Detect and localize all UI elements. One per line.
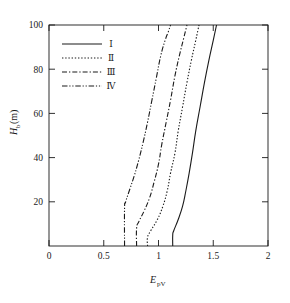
- y-tick-label: 80: [34, 65, 44, 75]
- x-axis-label-base: E: [149, 274, 156, 285]
- x-tick-labels: 0 0.5 1 1.5 2: [47, 251, 271, 261]
- y-axis-label: H b (m): [8, 110, 22, 136]
- series-line-III: [136, 25, 187, 246]
- chart-svg: 0 0.5 1 1.5 2 20 40 60 80 100 E pV H b (…: [0, 0, 290, 303]
- data-curves: [124, 25, 216, 246]
- x-tick-label: 0: [47, 251, 52, 261]
- x-axis-label-subscript: pV: [157, 280, 166, 288]
- legend-label-I: Ⅰ: [109, 39, 113, 49]
- y-tick-label: 40: [34, 153, 44, 163]
- legend-label-IV: Ⅳ: [107, 81, 117, 91]
- y-tick-label: 20: [34, 197, 44, 207]
- legend-label-III: Ⅲ: [107, 67, 116, 77]
- chart-figure: 0 0.5 1 1.5 2 20 40 60 80 100 E pV H b (…: [0, 0, 290, 303]
- legend-label-II: Ⅱ: [108, 53, 114, 63]
- y-tick-labels: 20 40 60 80 100: [29, 20, 44, 207]
- x-tick-label: 0.5: [98, 251, 110, 261]
- series-line-I: [173, 25, 217, 246]
- y-axis-ticks: [49, 25, 268, 202]
- y-axis-label-unit: (m): [8, 110, 20, 124]
- x-tick-label: 2: [266, 251, 271, 261]
- x-axis-label: E pV: [149, 274, 166, 288]
- x-tick-label: 1.5: [207, 251, 219, 261]
- legend: Ⅰ Ⅱ Ⅲ Ⅳ: [62, 39, 117, 91]
- x-tick-label: 1: [156, 251, 161, 261]
- y-tick-label: 60: [34, 109, 44, 119]
- y-tick-label: 100: [29, 20, 44, 30]
- series-line-II: [147, 25, 199, 246]
